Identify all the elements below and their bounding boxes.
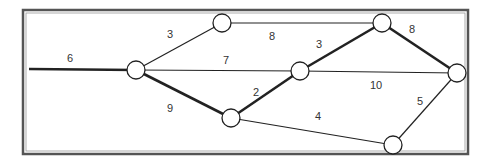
- node-G: [384, 136, 402, 154]
- edge-weight-label: 3: [316, 38, 322, 50]
- node-A: [127, 61, 145, 79]
- node-D: [291, 62, 309, 80]
- edges: [29, 23, 457, 145]
- node-C: [222, 109, 240, 127]
- edge-weight-label: 3: [167, 28, 173, 40]
- edge-weight-label: 9: [167, 102, 173, 114]
- nodes: [127, 14, 466, 154]
- edge-D-F: [300, 71, 457, 73]
- edge-weight-label: 4: [315, 110, 321, 122]
- node-F: [448, 64, 466, 82]
- frame: [23, 10, 468, 154]
- edge-weight-label: 10: [370, 79, 382, 91]
- edge-weight-label: 8: [269, 30, 275, 42]
- edge-weight-label: 5: [417, 95, 423, 107]
- edge-C-D: [231, 71, 300, 118]
- edge-weight-label: 8: [409, 23, 415, 35]
- edge-A-D: [136, 70, 300, 71]
- edge-A-C: [136, 70, 231, 118]
- node-B: [213, 14, 231, 32]
- edge-weight-label: 6: [67, 52, 73, 64]
- edge-E-F: [382, 23, 457, 73]
- node-E: [373, 14, 391, 32]
- edge-weight-label: 7: [223, 54, 229, 66]
- edge-weight-label: 2: [253, 86, 259, 98]
- edge-A-B: [136, 23, 222, 70]
- graph-diagram: 638792381045: [0, 0, 492, 164]
- edge-D-E: [300, 23, 382, 71]
- edge-G-F: [393, 73, 457, 145]
- edge-start-A: [29, 69, 136, 70]
- edge-C-G: [231, 118, 393, 145]
